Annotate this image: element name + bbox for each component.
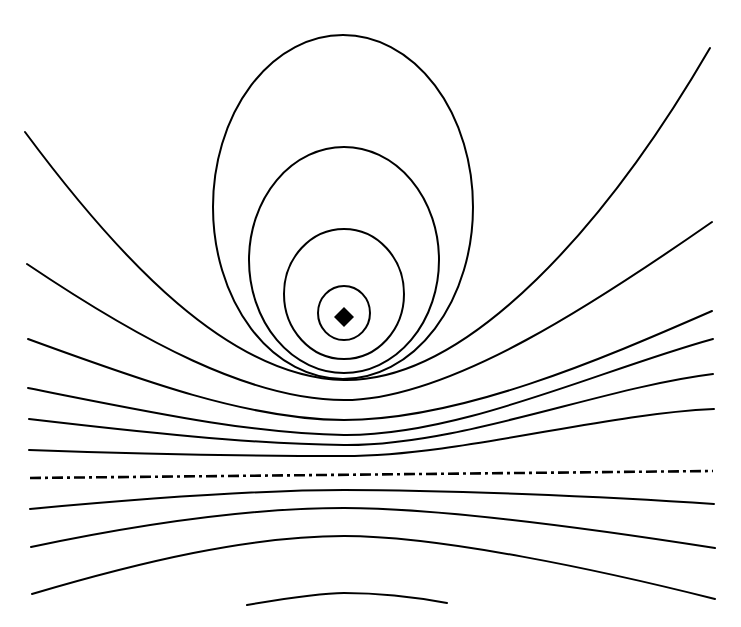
field-line-diagram bbox=[0, 0, 741, 627]
curve-below-1 bbox=[30, 490, 714, 509]
closed-loop-4 bbox=[213, 35, 473, 379]
open-curves-above-axis bbox=[25, 48, 714, 456]
curve-below-3 bbox=[32, 536, 715, 599]
curve-below-2 bbox=[31, 508, 715, 548]
curve-above-3 bbox=[28, 311, 712, 420]
point-source-diamond-icon bbox=[334, 307, 354, 327]
symmetry-axis bbox=[30, 471, 713, 478]
curve-below-4 bbox=[247, 593, 447, 605]
closed-loop-group bbox=[213, 35, 473, 379]
curve-above-6 bbox=[29, 409, 714, 456]
open-curves-below-axis bbox=[30, 490, 715, 605]
curve-above-1 bbox=[25, 48, 710, 380]
